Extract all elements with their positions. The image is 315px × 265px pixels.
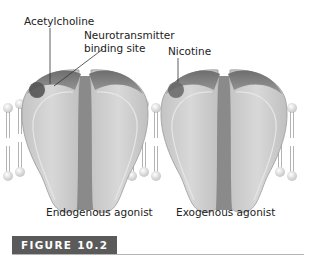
receptor-left (22, 70, 148, 213)
receptor-right (161, 70, 287, 213)
figure-number-badge: FIGURE 10.2 (12, 236, 117, 255)
binding-site-label-line2: binding site (84, 42, 145, 55)
acetylcholine-ligand (29, 82, 45, 98)
acetylcholine-label: Acetylcholine (24, 15, 94, 28)
nicotine-label: Nicotine (168, 45, 211, 58)
nicotine-ligand (168, 82, 184, 98)
caption-endogenous: Endogenous agonist (46, 206, 153, 218)
binding-site-label-line1: Neurotransmitter (84, 29, 175, 42)
receptor-diagram: Acetylcholine Neurotransmitter binding s… (0, 0, 315, 225)
caption-exogenous: Exogenous agonist (176, 206, 275, 218)
figure-divider (12, 254, 304, 255)
